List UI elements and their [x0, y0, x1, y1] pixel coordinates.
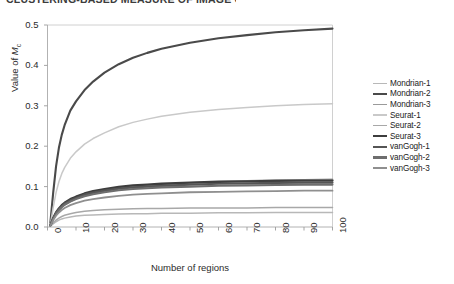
y-tick-label: 0.0 — [13, 221, 39, 232]
line-chart: 0.00.10.20.30.40.5 010203040506070809010… — [0, 0, 454, 284]
x-tick-label: 0 — [52, 228, 63, 233]
chart-screenshot: CLUSTERING-BASED MEASURE OF IMAGE COMPLE… — [0, 0, 454, 284]
legend-swatch-icon — [373, 135, 387, 137]
y-tick-label: 0.5 — [13, 19, 39, 30]
legend-label: Seurat-1 — [390, 111, 421, 120]
y-axis-title-prefix: Value of — [9, 55, 20, 92]
legend-label: Mondrian-1 — [390, 79, 430, 88]
legend-label: vanGogh-1 — [390, 142, 430, 151]
legend-item: Seurat-3 — [373, 131, 454, 142]
y-tick-label: 0.1 — [13, 181, 39, 192]
chart-legend: Mondrian-1Mondrian-2Mondrian-3Seurat-1Se… — [373, 78, 454, 173]
legend-label: Seurat-3 — [390, 132, 421, 141]
legend-item: Seurat-2 — [373, 120, 454, 131]
x-tick-label: 40 — [166, 222, 177, 233]
x-tick-label: 50 — [194, 222, 205, 233]
y-tick-label: 0.2 — [13, 140, 39, 151]
legend-swatch-icon — [373, 146, 387, 148]
legend-label: vanGogh-3 — [390, 164, 430, 173]
data-series-lines — [50, 29, 332, 227]
axis-lines — [48, 25, 333, 227]
legend-label: Mondrian-3 — [390, 100, 430, 109]
x-tick-label: 90 — [308, 222, 319, 233]
x-tick-label: 80 — [280, 222, 291, 233]
legend-item: Mondrian-3 — [373, 99, 454, 110]
series-line-seurat-1 — [50, 104, 332, 225]
x-tick-label: 20 — [109, 222, 120, 233]
legend-swatch-icon — [373, 83, 387, 85]
y-axis-title-symbol: M — [9, 47, 20, 55]
y-axis-title-subscript: c — [15, 44, 22, 48]
legend-item: Mondrian-1 — [373, 78, 454, 89]
legend-item: vanGogh-1 — [373, 142, 454, 153]
legend-label: Mondrian-2 — [390, 89, 430, 98]
x-tick-label: 100 — [337, 217, 348, 233]
legend-item: Seurat-1 — [373, 110, 454, 121]
x-axis-title: Number of regions — [0, 262, 380, 273]
x-tick-label: 10 — [80, 222, 91, 233]
legend-swatch-icon — [373, 93, 387, 95]
x-tick-label: 30 — [137, 222, 148, 233]
legend-swatch-icon — [373, 114, 387, 116]
legend-label: Seurat-2 — [390, 121, 421, 130]
legend-swatch-icon — [373, 125, 387, 127]
legend-swatch-icon — [373, 167, 387, 169]
legend-item: Mondrian-2 — [373, 89, 454, 100]
legend-item: vanGogh-3 — [373, 163, 454, 174]
y-tick-label: 0.3 — [13, 100, 39, 111]
x-tick-label: 70 — [251, 222, 262, 233]
legend-swatch-icon — [373, 156, 387, 158]
x-tick-label: 60 — [223, 222, 234, 233]
legend-swatch-icon — [373, 104, 387, 106]
legend-item: vanGogh-2 — [373, 152, 454, 163]
legend-label: vanGogh-2 — [390, 153, 430, 162]
series-line-vangogh-1 — [50, 183, 332, 226]
y-axis-title: Value of Mc — [9, 44, 22, 92]
